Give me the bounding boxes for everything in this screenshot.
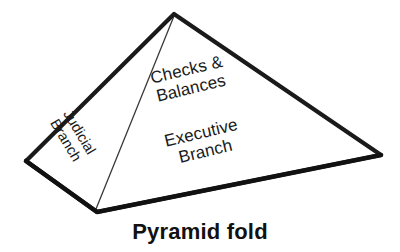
pyramid-drawing	[0, 0, 400, 252]
pyramid-fold-figure: Judicial Branch Checks & Balances Execut…	[0, 0, 400, 252]
pyramid-body-fill	[26, 14, 381, 212]
figure-caption: Pyramid fold	[0, 219, 400, 245]
